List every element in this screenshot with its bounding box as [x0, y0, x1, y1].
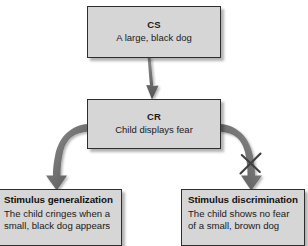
connector-cs-to-cr — [146, 57, 158, 100]
diagram-canvas: CS A large, black dog CR Child displays … — [0, 0, 308, 246]
node-stimulus-generalization-title: Stimulus generalization — [4, 194, 113, 207]
node-cr-title: CR — [147, 111, 161, 123]
node-cs: CS A large, black dog — [87, 6, 221, 58]
node-cr-description: Child displays fear — [115, 124, 193, 137]
node-cs-title: CS — [147, 19, 160, 31]
connector-cr-to-discrimination — [219, 124, 262, 191]
node-stimulus-discrimination-description: The child shows no fear of a small, brow… — [188, 208, 289, 233]
node-stimulus-discrimination-title: Stimulus discrimination — [188, 194, 298, 207]
node-cr: CR Child displays fear — [87, 99, 221, 149]
blocked-x-icon — [241, 154, 261, 174]
connector-cr-to-generalization — [46, 124, 89, 191]
node-stimulus-generalization-description: The child cringes when a small, black do… — [4, 208, 110, 233]
node-cs-description: A large, black dog — [116, 32, 192, 45]
node-stimulus-generalization: Stimulus generalization The child cringe… — [0, 189, 122, 246]
node-stimulus-discrimination: Stimulus discrimination The child shows … — [181, 189, 305, 246]
